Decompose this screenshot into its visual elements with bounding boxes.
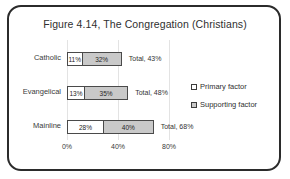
x-axis-tick-0: 0% [62, 143, 72, 150]
bar-segment-supporting-catholic: 32% [82, 53, 121, 65]
legend-label-supporting: Supporting factor [200, 100, 257, 109]
legend-swatch-supporting-icon [191, 102, 197, 108]
legend-swatch-primary-icon [191, 84, 197, 90]
bar-segment-primary-catholic: 11% [68, 53, 82, 65]
category-label-evangelical: Evangelical [23, 87, 61, 96]
chart-legend: Primary factor Supporting factor [191, 82, 271, 118]
total-label-evangelical: Total, 48% [135, 89, 168, 96]
category-label-mainline: Mainline [33, 121, 61, 130]
bar-segment-supporting-evangelical: 35% [84, 87, 127, 99]
stacked-bar-mainline[interactable]: 28% 40% Total, 68% [67, 120, 154, 134]
legend-item-primary-factor[interactable]: Primary factor [191, 82, 271, 91]
stacked-bar-evangelical[interactable]: 13% 35% Total, 48% [67, 86, 128, 100]
chart-title: Figure 4.14, The Congregation (Christian… [22, 18, 268, 30]
legend-label-primary: Primary factor [200, 82, 247, 91]
x-axis: 0% 40% 80% [67, 143, 169, 155]
category-label-catholic: Catholic [34, 53, 61, 62]
x-axis-tick-80: 80% [162, 143, 176, 150]
chart-area: Figure 4.14, The Congregation (Christian… [0, 0, 290, 179]
bar-segment-primary-evangelical: 13% [68, 87, 84, 99]
stacked-bar-catholic[interactable]: 11% 32% Total, 43% [67, 52, 122, 66]
x-axis-tick-40: 40% [111, 143, 125, 150]
total-label-mainline: Total, 68% [161, 123, 194, 130]
plot-region: Catholic 11% 32% Total, 43% Evangelical … [67, 40, 169, 140]
bar-segment-supporting-mainline: 40% [103, 121, 153, 133]
legend-item-supporting-factor[interactable]: Supporting factor [191, 100, 271, 109]
chart-screenshot: Figure 4.14, The Congregation (Christian… [0, 0, 290, 179]
bar-segment-primary-mainline: 28% [68, 121, 103, 133]
total-label-catholic: Total, 43% [129, 55, 162, 62]
